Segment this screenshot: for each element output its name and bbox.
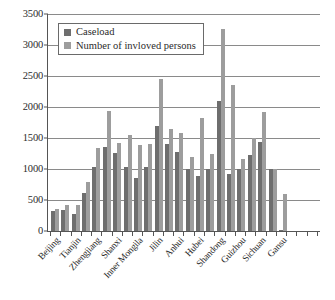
bar-group [227, 14, 235, 231]
x-tick-label: Gansu [266, 236, 289, 260]
bar [148, 144, 152, 231]
legend-item: Number of invloved persons [64, 41, 196, 52]
bar [159, 79, 163, 231]
x-tick-label-text: Gansu [266, 236, 289, 260]
legend-label-caseload: Caseload [76, 27, 115, 38]
y-tick-label: 500 [28, 195, 48, 206]
bar [169, 129, 173, 231]
bar-group [258, 14, 266, 231]
y-tick-label: 2000 [23, 102, 48, 113]
bar [128, 135, 132, 231]
bar [221, 29, 225, 231]
legend-swatch-caseload [64, 29, 71, 36]
bar-chart: 0500100015002000250030003500 BeijingTian… [0, 0, 335, 300]
bar-group [289, 14, 297, 231]
x-tick-label: Anhui [163, 236, 185, 259]
y-tick-label: 3500 [23, 9, 48, 20]
bar-group [206, 14, 214, 231]
legend: Caseload Number of invloved persons [58, 23, 204, 55]
bar [65, 205, 69, 231]
bar [179, 133, 183, 231]
bar [96, 148, 100, 231]
bar [55, 209, 59, 231]
bar [273, 169, 277, 231]
bar-group [217, 14, 225, 231]
legend-label-involved-persons: Number of invloved persons [76, 41, 196, 52]
bar [262, 112, 266, 231]
x-tick-label-text: Anhui [163, 236, 185, 259]
bar-group [248, 14, 256, 231]
bar [241, 159, 245, 231]
y-tick-label: 2500 [23, 71, 48, 82]
bar [190, 157, 194, 231]
bar [210, 154, 214, 231]
bar [252, 138, 256, 231]
x-axis-labels: BeijingTianjinZhengjiangShanxiInner Mong… [47, 236, 320, 298]
x-tick-label-text: Beijing [37, 236, 62, 262]
y-tick-label: 3000 [23, 40, 48, 51]
legend-swatch-involved-persons [64, 42, 71, 49]
bar [200, 118, 204, 231]
bar [107, 111, 111, 231]
bar-group [310, 14, 318, 231]
y-tick-label: 1000 [23, 164, 48, 175]
bar-group [237, 14, 245, 231]
bar [86, 182, 90, 231]
bar-group [269, 14, 277, 231]
bar [231, 85, 235, 231]
bar [117, 143, 121, 231]
x-tick-label: Beijing [37, 236, 62, 262]
legend-item: Caseload [64, 27, 196, 38]
bar [138, 145, 142, 231]
bar [283, 194, 287, 231]
y-tick-label: 1500 [23, 133, 48, 144]
bar-group [279, 14, 287, 231]
bar-group [300, 14, 308, 231]
bar [76, 205, 80, 231]
